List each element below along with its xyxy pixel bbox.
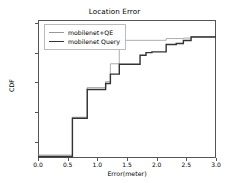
x-tick-mark xyxy=(157,158,158,161)
x-tick-label: 1.5 xyxy=(112,161,142,168)
series-line xyxy=(38,36,216,156)
legend-item: mobilenet Query xyxy=(49,37,120,46)
x-tick-mark xyxy=(68,158,69,161)
chart-legend: mobilenet+QE mobilenet Query xyxy=(44,24,126,50)
y-tick-mark xyxy=(35,23,38,24)
x-tick-mark xyxy=(216,158,217,161)
y-tick-mark xyxy=(35,112,38,113)
y-tick-mark xyxy=(35,142,38,143)
series-line xyxy=(38,36,216,155)
x-tick-label: 2.5 xyxy=(171,161,201,168)
x-tick-mark xyxy=(97,158,98,161)
chart-figure: Location Error Error(meter) CDF mobilene… xyxy=(0,0,229,183)
x-tick-mark xyxy=(186,158,187,161)
x-tick-label: 2.0 xyxy=(142,161,172,168)
x-tick-label: 1.0 xyxy=(82,161,112,168)
x-tick-label: 0.5 xyxy=(53,161,83,168)
x-tick-mark xyxy=(127,158,128,161)
legend-label-qe: mobilenet+QE xyxy=(68,29,113,36)
x-tick-label: 3.0 xyxy=(201,161,229,168)
x-tick-label: 0.0 xyxy=(23,161,53,168)
y-axis-label: CDF xyxy=(8,61,15,111)
legend-item: mobilenet+QE xyxy=(49,28,120,37)
chart-title: Location Error xyxy=(0,7,229,16)
y-tick-mark xyxy=(35,53,38,54)
x-tick-mark xyxy=(38,158,39,161)
y-tick-mark xyxy=(35,82,38,83)
legend-swatch-qe xyxy=(49,32,64,33)
legend-label-query: mobilenet Query xyxy=(68,38,120,45)
legend-swatch-query xyxy=(49,41,64,42)
x-axis-label: Error(meter) xyxy=(38,170,216,177)
